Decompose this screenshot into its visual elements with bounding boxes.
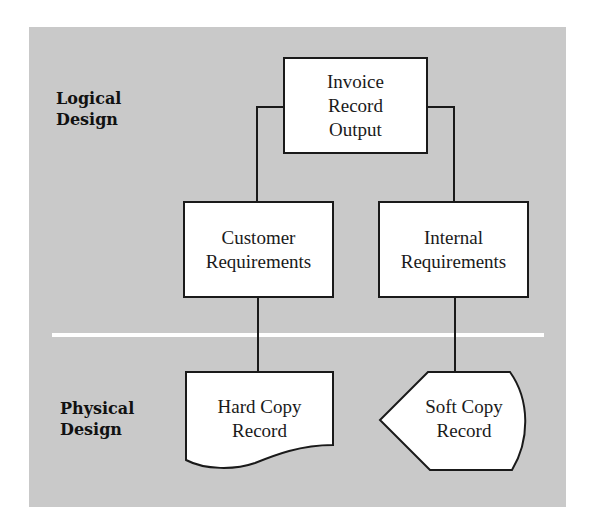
section-label-physical-line1: Physical <box>60 398 134 419</box>
section-label-logical: Logical Design <box>56 88 121 130</box>
node-softcopy-line1: Soft Copy <box>425 395 503 419</box>
node-internal-label: Internal Requirements <box>379 202 528 297</box>
node-customer-line1: Customer <box>222 226 296 250</box>
section-label-logical-line1: Logical <box>56 88 121 109</box>
node-invoice-line2: Record <box>328 94 383 118</box>
node-invoice-line3: Output <box>329 118 382 142</box>
node-hardcopy-label: Hard Copy Record <box>186 384 333 454</box>
node-invoice-line1: Invoice <box>327 70 384 94</box>
node-softcopy-label: Soft Copy Record <box>408 384 520 454</box>
node-customer-line2: Requirements <box>206 250 312 274</box>
node-hardcopy-line1: Hard Copy <box>218 395 302 419</box>
section-label-logical-line2: Design <box>56 109 121 130</box>
node-hardcopy-line2: Record <box>232 419 287 443</box>
section-label-physical: Physical Design <box>60 398 134 440</box>
node-internal-line2: Requirements <box>401 250 507 274</box>
section-label-physical-line2: Design <box>60 419 134 440</box>
section-divider <box>52 333 544 337</box>
node-softcopy-line2: Record <box>437 419 492 443</box>
node-internal-line1: Internal <box>424 226 483 250</box>
edge-invoice-internal <box>427 107 454 202</box>
node-customer-label: Customer Requirements <box>184 202 333 297</box>
node-invoice-label: Invoice Record Output <box>284 58 427 153</box>
edge-invoice-customer <box>257 107 284 202</box>
